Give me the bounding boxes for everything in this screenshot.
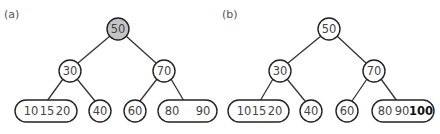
- leaf-value: 15: [40, 104, 55, 118]
- leaf-value: 15: [252, 104, 267, 118]
- edge: [381, 79, 397, 101]
- leaf-value: 10: [24, 104, 39, 118]
- edge: [126, 36, 156, 63]
- root-node: 50: [318, 18, 340, 40]
- root-value: 50: [322, 22, 337, 36]
- leaf-value: 80: [378, 104, 393, 118]
- edge: [171, 79, 184, 101]
- leaf-80-90-100: 80 90 100: [372, 100, 434, 122]
- node-70: 70: [153, 60, 175, 82]
- edge: [47, 79, 63, 101]
- edge: [288, 36, 321, 63]
- edge: [140, 79, 157, 101]
- leaf-value: 90: [196, 104, 211, 118]
- leaf-40: 40: [300, 100, 322, 122]
- leaf-40: 40: [89, 100, 111, 122]
- leaf-value: 60: [128, 104, 143, 118]
- leaf-60: 60: [336, 100, 358, 122]
- node-value: 70: [367, 64, 382, 78]
- tree-diagrams: (a) 50 30 70 10 15 20 40: [0, 0, 440, 134]
- leaf-value: 80: [165, 104, 180, 118]
- edge: [352, 79, 367, 101]
- leaf-80-90: 80 90: [158, 100, 217, 122]
- node-value: 30: [273, 64, 288, 78]
- node-70: 70: [363, 60, 385, 82]
- edge: [77, 79, 95, 101]
- node-value: 70: [157, 64, 172, 78]
- leaf-60: 60: [124, 100, 146, 122]
- edge: [287, 79, 305, 101]
- leaf-value: 90: [395, 104, 410, 118]
- panel-a: (a) 50 30 70 10 15 20 40: [4, 8, 217, 122]
- node-30: 30: [59, 60, 81, 82]
- edge: [337, 36, 366, 63]
- panel-b: (b) 50 30 70 10 15 20 40: [222, 8, 434, 122]
- node-30: 30: [269, 60, 291, 82]
- leaf-10-15-20: 10 15 20: [228, 100, 289, 122]
- panel-a-label: (a): [4, 8, 19, 21]
- leaf-value: 10: [237, 104, 252, 118]
- panel-b-label: (b): [222, 8, 238, 21]
- leaf-value: 20: [56, 104, 71, 118]
- root-node: 50: [107, 18, 129, 40]
- leaf-value: 20: [268, 104, 283, 118]
- edge: [78, 36, 110, 63]
- leaf-value-new: 100: [409, 104, 433, 118]
- root-value: 50: [111, 22, 126, 36]
- leaf-value: 40: [304, 104, 319, 118]
- node-value: 30: [63, 64, 78, 78]
- leaf-10-15-20: 10 15 20: [15, 100, 77, 122]
- edge: [260, 79, 273, 101]
- leaf-value: 60: [340, 104, 355, 118]
- leaf-value: 40: [93, 104, 108, 118]
